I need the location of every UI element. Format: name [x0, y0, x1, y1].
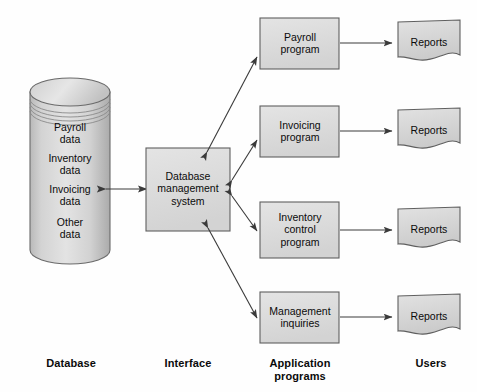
report-doc-3: [398, 207, 460, 247]
column-label-users: Users: [396, 357, 466, 370]
column-label-interface: Interface: [145, 357, 231, 370]
program-box-inventory: [260, 202, 339, 258]
arrow-dbms-payroll: [207, 57, 257, 152]
program-box-invoicing: [260, 106, 339, 157]
program-box-payroll: [260, 18, 339, 69]
diagram-graphics: [0, 0, 477, 392]
diagram-canvas: Payroll data Inventory data Invoicing da…: [0, 0, 477, 392]
arrow-dbms-inventory: [232, 196, 257, 231]
report-doc-4: [398, 294, 460, 334]
program-box-management: [260, 292, 339, 343]
dbms-box: [146, 148, 230, 231]
database-cylinder: [30, 78, 110, 264]
report-doc-2: [398, 108, 460, 148]
report-doc-1: [398, 20, 460, 60]
arrow-dbms-management: [208, 228, 257, 318]
column-label-application-programs: Application programs: [256, 357, 344, 383]
column-label-database: Database: [26, 357, 116, 370]
arrow-dbms-invoicing: [232, 140, 257, 180]
